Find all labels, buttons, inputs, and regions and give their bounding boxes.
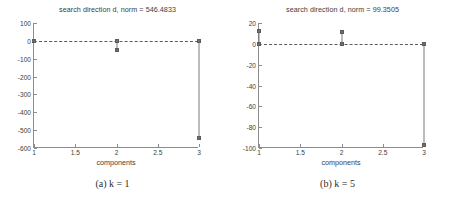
- x-tick-label: 2: [340, 149, 344, 156]
- y-tick-label: -200: [18, 73, 31, 80]
- x-tick-mark: [117, 144, 118, 147]
- chart-panel-b: search direction d, norm = 99.3505 200-2…: [225, 0, 450, 205]
- subfigure-caption-b: (b) k = 5: [225, 178, 450, 189]
- x-tick-mark: [259, 144, 260, 147]
- x-tick-label: 3: [422, 149, 426, 156]
- chart-title-b: search direction d, norm = 99.3505: [245, 5, 440, 14]
- y-tick-label: 20: [249, 20, 256, 27]
- stem-line: [424, 44, 425, 145]
- y-tick-mark: [259, 23, 262, 24]
- x-axis-label: components: [96, 158, 135, 167]
- stem-base-marker: [340, 42, 344, 46]
- x-tick-label: 1.5: [71, 149, 80, 156]
- y-tick-mark: [34, 112, 37, 113]
- stem-base-marker: [115, 39, 119, 43]
- y-tick-mark: [34, 130, 37, 131]
- data-point-marker: [32, 39, 36, 43]
- y-tick-label: -20: [246, 61, 256, 68]
- y-tick-mark: [259, 65, 262, 66]
- y-tick-mark: [259, 86, 262, 87]
- x-tick-mark: [383, 144, 384, 147]
- y-tick-mark: [34, 23, 37, 24]
- y-tick-label: -100: [243, 145, 256, 152]
- stem-base-marker: [422, 42, 426, 46]
- data-point-marker: [197, 136, 201, 140]
- plot-area-b: 200-20-40-60-80-10011.522.53components: [258, 23, 423, 148]
- x-tick-mark: [342, 144, 343, 147]
- y-tick-label: -60: [246, 103, 256, 110]
- y-tick-mark: [259, 127, 262, 128]
- x-tick-label: 2.5: [378, 149, 387, 156]
- chart-title-a: search direction d, norm = 546.4833: [20, 5, 215, 14]
- x-tick-label: 1.5: [296, 149, 305, 156]
- x-tick-mark: [158, 144, 159, 147]
- x-tick-label: 2.5: [153, 149, 162, 156]
- y-tick-label: 0: [252, 40, 256, 47]
- stem-line: [199, 41, 200, 138]
- x-tick-label: 1: [32, 149, 36, 156]
- x-tick-mark: [34, 144, 35, 147]
- y-tick-label: -80: [246, 124, 256, 131]
- chart-panel-a: search direction d, norm = 546.4833 1000…: [0, 0, 225, 205]
- data-point-marker: [115, 48, 119, 52]
- x-tick-label: 3: [197, 149, 201, 156]
- y-tick-label: 100: [20, 20, 31, 27]
- data-point-marker: [257, 29, 261, 33]
- x-tick-mark: [75, 144, 76, 147]
- stem-base-marker: [257, 42, 261, 46]
- y-tick-label: -100: [18, 55, 31, 62]
- x-tick-label: 1: [257, 149, 261, 156]
- x-axis-label: components: [321, 158, 360, 167]
- y-tick-label: -40: [246, 82, 256, 89]
- y-tick-mark: [34, 77, 37, 78]
- data-point-marker: [340, 30, 344, 34]
- y-tick-mark: [34, 94, 37, 95]
- y-tick-label: -400: [18, 109, 31, 116]
- y-tick-label: -600: [18, 145, 31, 152]
- x-tick-mark: [300, 144, 301, 147]
- y-tick-mark: [259, 106, 262, 107]
- y-tick-label: 0: [27, 37, 31, 44]
- stem-base-marker: [197, 39, 201, 43]
- subfigure-caption-a: (a) k = 1: [0, 178, 225, 189]
- x-tick-mark: [199, 144, 200, 147]
- x-tick-label: 2: [115, 149, 119, 156]
- data-point-marker: [422, 143, 426, 147]
- y-tick-label: -500: [18, 127, 31, 134]
- y-tick-mark: [34, 59, 37, 60]
- figure-sheet: search direction d, norm = 546.4833 1000…: [0, 0, 450, 205]
- y-tick-label: -300: [18, 91, 31, 98]
- plot-area-a: 1000-100-200-300-400-500-60011.522.53com…: [33, 23, 198, 148]
